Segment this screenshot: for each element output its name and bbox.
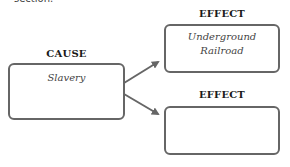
cause-text: Slavery — [10, 71, 123, 85]
cause-label: CAUSE — [8, 48, 125, 59]
effect-box-2 — [164, 106, 280, 155]
arrow-to-effect-1 — [124, 62, 158, 83]
effect-box-1: Underground Railroad — [164, 24, 280, 73]
effect-label-2: EFFECT — [164, 89, 280, 100]
effect-1-text-line1: Underground — [166, 30, 278, 44]
effect-1-text-line2: Railroad — [166, 44, 278, 58]
cause-box: Slavery — [8, 63, 125, 120]
arrow-to-effect-2 — [124, 94, 158, 114]
effect-label-1: EFFECT — [164, 8, 280, 19]
